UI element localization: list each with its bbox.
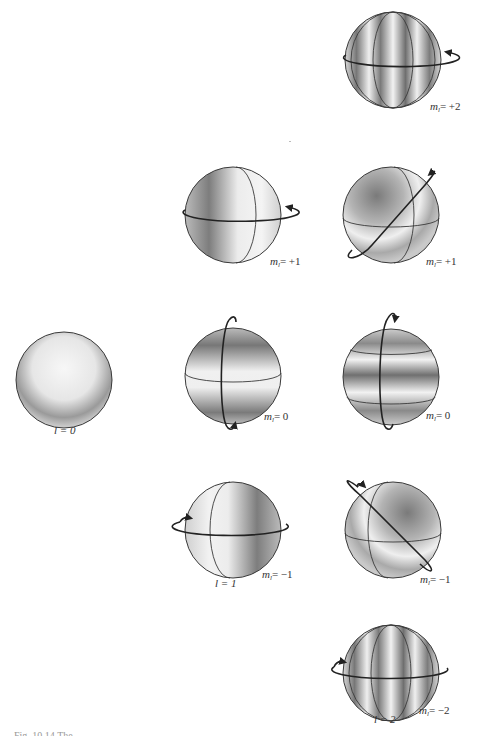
ml-value-minus1: = −1	[272, 568, 293, 580]
sphere-l0: l = 0	[16, 332, 112, 436]
l2-label: l = 2	[374, 713, 396, 725]
ml-value-0: = 0	[274, 410, 289, 422]
print-speck	[289, 141, 291, 142]
sphere-l2-m-minus1: ml= −1	[345, 481, 451, 587]
svg-text:l = 0: l = 0	[54, 424, 76, 436]
sphere-l2-m-plus2: ml= +2	[344, 12, 461, 114]
svg-text:l = 1: l = 1	[215, 577, 236, 589]
svg-text:ml= 0: ml= 0	[264, 410, 289, 424]
svg-text:ml= +1: ml= +1	[270, 255, 301, 269]
ml-value-minus1-b: = −1	[430, 573, 451, 585]
svg-text:l = 2: l = 2	[374, 713, 396, 725]
ml-value-plus1-b: = +1	[436, 255, 457, 267]
l1-label: l = 1	[215, 577, 236, 589]
svg-text:ml= 0: ml= 0	[426, 409, 451, 423]
spherical-harmonics-figure: ml= +2 ml= +1 ml= +1 l = 0 ml= 0 ml= 0	[0, 0, 478, 741]
sphere-l1-m-plus1: ml= +1	[183, 167, 300, 269]
sphere-l2-m-plus1: ml= +1	[343, 167, 457, 269]
ml-value-plus1: = +1	[280, 255, 301, 267]
ml-value-plus2: = +2	[440, 100, 461, 112]
svg-text:ml= −1: ml= −1	[420, 573, 451, 587]
svg-text:ml= −2: ml= −2	[419, 704, 450, 718]
svg-text:ml= +1: ml= +1	[426, 255, 457, 269]
sphere-l2-m-minus2: ml= −2 l = 2	[332, 625, 450, 725]
svg-text:ml= +2: ml= +2	[430, 100, 461, 114]
sphere-l1-m0: ml= 0	[185, 317, 289, 429]
ml-value-0-b: = 0	[436, 409, 451, 421]
sphere-l1-m-minus1: ml= −1 l = 1	[172, 482, 292, 589]
ml-label-prefix: m	[430, 100, 438, 112]
svg-text:ml= −1: ml= −1	[262, 568, 293, 582]
sphere-l2-m0: ml= 0	[343, 314, 451, 430]
l0-label: l = 0	[54, 424, 76, 436]
ml-value-minus2: = −2	[429, 704, 450, 716]
